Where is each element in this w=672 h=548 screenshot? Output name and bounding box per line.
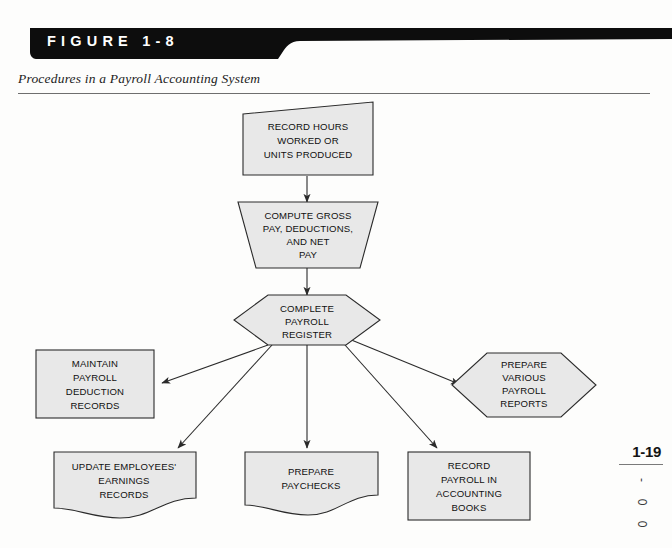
register-line-3: REGISTER	[282, 329, 332, 340]
maintain-line-2: PAYROLL	[73, 372, 117, 383]
paychecks-line-2: PAYCHECKS	[281, 480, 340, 491]
compute-line-2: PAY, DEDUCTIONS,	[263, 223, 353, 234]
margin-code-char-2: 0	[636, 499, 648, 506]
register-line-2: PAYROLL	[285, 316, 329, 327]
page-number-divider	[619, 464, 663, 465]
compute-line-1: COMPUTE GROSS	[264, 210, 351, 221]
edge-register-to-prepare-reports	[349, 339, 459, 384]
maintain-line-4: RECORDS	[70, 400, 119, 411]
compute-line-4: PAY	[299, 249, 318, 260]
reports-line-4: REPORTS	[500, 398, 547, 409]
paychecks-line-1: PREPARE	[288, 466, 334, 477]
node-prepare-various-payroll-reports[interactable]: PREPARE VARIOUS PAYROLL REPORTS	[452, 353, 596, 417]
margin-code-char-1: -	[636, 478, 648, 482]
node-prepare-paychecks[interactable]: PREPARE PAYCHECKS	[245, 452, 378, 515]
maintain-line-1: MAINTAIN	[72, 358, 118, 369]
node-maintain-payroll-deduction-records[interactable]: MAINTAIN PAYROLL DEDUCTION RECORDS	[36, 350, 154, 418]
reports-line-2: VARIOUS	[502, 372, 546, 383]
update-line-1: UPDATE EMPLOYEES'	[72, 461, 176, 472]
record-hours-line-2: WORKED OR	[277, 135, 339, 146]
node-complete-payroll-register[interactable]: COMPLETE PAYROLL REGISTER	[234, 295, 380, 345]
node-record-payroll-in-accounting-books[interactable]: RECORD PAYROLL IN ACCOUNTING BOOKS	[408, 452, 530, 520]
margin-code: - 0 0	[632, 474, 652, 530]
reports-line-1: PREPARE	[501, 359, 547, 370]
title-divider	[18, 93, 650, 94]
node-update-employees-earnings-records[interactable]: UPDATE EMPLOYEES' EARNINGS RECORDS	[54, 452, 196, 518]
record-hours-line-1: RECORD HOURS	[268, 121, 349, 132]
update-line-3: RECORDS	[99, 489, 148, 500]
maintain-line-3: DEDUCTION	[66, 386, 124, 397]
node-record-hours[interactable]: RECORD HOURS WORKED OR UNITS PRODUCED	[243, 102, 373, 175]
books-line-4: BOOKS	[452, 502, 487, 513]
edge-register-to-record-payroll-books	[345, 345, 437, 448]
reports-line-3: PAYROLL	[502, 385, 546, 396]
books-line-1: RECORD	[448, 460, 490, 471]
page-number: 1-19	[632, 443, 661, 460]
record-hours-line-3: UNITS PRODUCED	[264, 149, 352, 160]
books-line-2: PAYROLL IN	[441, 474, 497, 485]
node-compute-gross-pay[interactable]: COMPUTE GROSS PAY, DEDUCTIONS, AND NET P…	[238, 202, 378, 268]
update-line-2: EARNINGS	[98, 475, 149, 486]
payroll-flowchart: RECORD HOURS WORKED OR UNITS PRODUCED CO…	[0, 96, 672, 548]
figure-label: FIGURE 1-8	[47, 33, 179, 49]
register-line-1: COMPLETE	[280, 303, 334, 314]
compute-line-3: AND NET	[286, 236, 329, 247]
books-line-3: ACCOUNTING	[436, 488, 502, 499]
figure-subtitle: Procedures in a Payroll Accounting Syste…	[18, 71, 260, 87]
edge-register-to-maintain-deduction-records	[162, 345, 268, 383]
margin-code-char-3: 0	[636, 521, 648, 528]
